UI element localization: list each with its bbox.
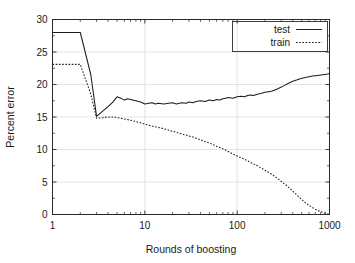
series-line-train	[53, 64, 330, 214]
x-tick-labels-group: 1101001000	[50, 220, 341, 231]
y-tick-label: 20	[36, 79, 48, 90]
legend-label-train: train	[271, 37, 290, 48]
x-tick-label: 1	[50, 220, 56, 231]
x-tick-label: 100	[229, 220, 246, 231]
x-tick-label: 10	[139, 220, 151, 231]
y-tick-label: 30	[36, 14, 48, 25]
x-axis-title: Rounds of boosting	[146, 243, 237, 255]
legend-label-test: test	[274, 24, 290, 35]
y-tick-label: 10	[36, 144, 48, 155]
legend: test train	[233, 22, 328, 52]
chart-figure: 1101001000 051015202530 Rounds of boosti…	[0, 0, 355, 263]
x-tick-label: 1000	[318, 220, 341, 231]
gridlines-group	[53, 20, 330, 215]
y-tick-label: 5	[42, 177, 48, 188]
y-axis-title: Percent error	[4, 86, 16, 148]
y-tick-label: 0	[42, 209, 48, 220]
y-tick-label: 15	[36, 112, 48, 123]
y-tick-labels-group: 051015202530	[36, 14, 48, 220]
chart-svg: 1101001000 051015202530 Rounds of boosti…	[0, 0, 355, 263]
y-tick-label: 25	[36, 47, 48, 58]
